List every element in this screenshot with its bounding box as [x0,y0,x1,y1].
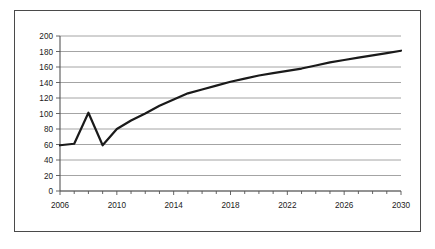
y-axis-tick-label: 60 [44,141,54,150]
chart-frame: 0204060801001201401601802002006201020142… [14,10,421,232]
y-axis-tick-label: 40 [44,156,54,165]
y-axis-tick-label: 80 [44,125,54,134]
x-axis-tick-label: 2014 [165,201,184,210]
y-axis-tick-label: 200 [39,32,53,41]
y-axis-tick-label: 20 [44,172,54,181]
figure-root: 0204060801001201401601802002006201020142… [0,0,435,249]
line-chart: 0204060801001201401601802002006201020142… [15,11,419,230]
x-axis-tick-label: 2022 [278,201,297,210]
y-axis-tick-label: 140 [39,79,53,88]
y-axis-tick-label: 100 [39,110,53,119]
x-axis-tick-label: 2026 [335,201,354,210]
y-axis-tick-label: 160 [39,63,53,72]
y-axis-tick-label: 0 [48,187,53,196]
x-axis-tick-label: 2018 [221,201,240,210]
y-axis-tick-label: 180 [39,48,53,57]
x-axis-tick-label: 2006 [51,201,70,210]
y-axis-tick-label: 120 [39,94,53,103]
x-axis-tick-label: 2030 [392,201,411,210]
x-axis-tick-label: 2010 [108,201,127,210]
